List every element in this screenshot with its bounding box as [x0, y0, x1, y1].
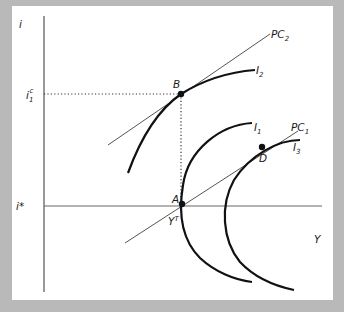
i1-curve: [181, 123, 252, 282]
diagram-canvas: i Y i* i1c YT PC2 I2 I1 PC1 I3 B A D: [0, 0, 344, 312]
pc2-label: PC2: [271, 28, 290, 43]
point-a-label: A: [171, 193, 179, 205]
x-axis-label: Y: [314, 233, 322, 245]
i2-label: I2: [256, 64, 264, 79]
i1-label: I1: [254, 121, 262, 136]
y-axis-label: i: [19, 18, 22, 30]
i1c-label: i1c: [26, 87, 33, 104]
istar-label: i*: [16, 200, 24, 212]
i2-curve: [128, 70, 255, 173]
point-a: [179, 201, 185, 207]
yt-label: YT: [168, 215, 179, 227]
point-d: [259, 144, 265, 150]
point-d-label: D: [259, 152, 267, 164]
point-b-label: B: [173, 78, 180, 90]
i3-label: I3: [293, 141, 301, 156]
point-b: [178, 91, 184, 97]
